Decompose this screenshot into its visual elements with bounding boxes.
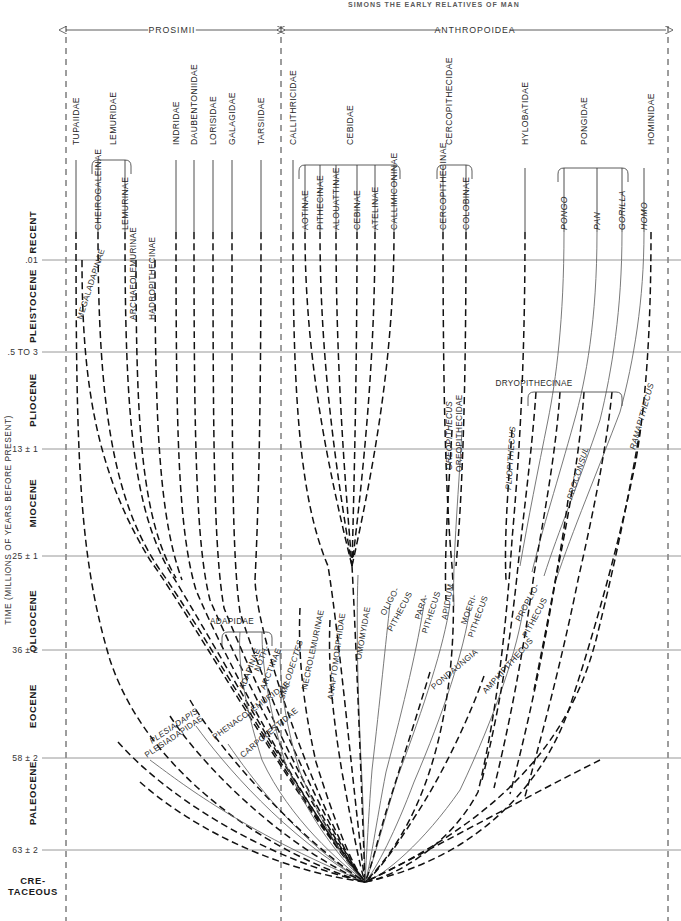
family-label-lemuridae: LEMURIDAE bbox=[108, 92, 118, 145]
bracket-dryopithecinae bbox=[528, 392, 622, 406]
fossil-label-hadropithecinae: HADROPITHECINAE bbox=[148, 237, 157, 320]
family-label-pongidae: PONGIDAE bbox=[579, 97, 589, 145]
family-label-indridae: INDRIDAE bbox=[171, 101, 181, 145]
subfamily-label-pithecinae: PITHECINAE bbox=[315, 175, 325, 230]
lineage-indridae bbox=[176, 232, 365, 882]
lineage-cebidae-sub bbox=[336, 232, 352, 566]
subfamily-label-colobinae: COLOBINAE bbox=[461, 177, 471, 230]
lineage-pongo bbox=[520, 232, 564, 566]
genus-label-pan: PAN bbox=[592, 211, 602, 230]
time-tick-label: .01 bbox=[25, 255, 38, 265]
lineage-moeripithecus bbox=[365, 608, 470, 882]
subfamily-label-aotinae: AOTINAE bbox=[300, 190, 310, 230]
lineage-dryo-c bbox=[510, 392, 584, 794]
time-tick-label: .5 TO 3 bbox=[8, 347, 38, 357]
genus-label-gorilla: GORILLA bbox=[617, 190, 627, 230]
family-label-tarsiidae: TARSIIDAE bbox=[256, 97, 266, 145]
suborder-prosimii: PROSIMII bbox=[149, 25, 196, 35]
axis-title: TIME (MILLIONS OF YEARS BEFORE PRESENT) bbox=[3, 415, 13, 625]
taxon-brackets bbox=[92, 160, 628, 646]
family-label-galagidae: GALAGIDAE bbox=[227, 92, 237, 145]
subfamily-label-callimiconinae: CALLIMICONINAE bbox=[389, 153, 399, 231]
fossil-label-archaeolemurinae: ARCHAEOLEMURINAE bbox=[129, 227, 138, 320]
fossil-taxon-labels: MEGALADAPINAEARCHAEOLEMURINAEHADROPITHEC… bbox=[75, 227, 656, 760]
family-label-tupaiidae: TUPAIIDAE bbox=[71, 97, 81, 145]
fossil-label-ramapithecus: RAMAPITHECUS bbox=[628, 382, 656, 451]
lineage-megaladapinae bbox=[82, 260, 365, 882]
time-tick-label: 63 ± 2 bbox=[12, 845, 38, 855]
time-tick-label: 25 ± 1 bbox=[12, 551, 38, 561]
lineage-amphipithecus bbox=[365, 676, 484, 882]
lineage-cercopithecinae bbox=[365, 232, 453, 882]
epoch-label: RECENT bbox=[27, 211, 38, 254]
fossil-label-oreopithecus: OREOPITHECUS bbox=[445, 401, 454, 470]
lineage-cebidae-sub bbox=[352, 232, 357, 566]
time-tick-label: 13 ± 1 bbox=[12, 444, 38, 454]
running-head: SIMONS THE EARLY RELATIVES OF MAN bbox=[348, 1, 520, 8]
subfamily-labels: CHEIROGALEINAELEMURINAEAOTINAEPITHECINAE… bbox=[93, 142, 471, 230]
lineage-homo bbox=[556, 232, 644, 580]
suborder-anthropoidea: ANTHROPOIDEA bbox=[434, 25, 515, 35]
fossil-label-dryopithecinae: DRYOPITHECINAE bbox=[496, 379, 573, 388]
lineage-carpolestidae bbox=[228, 744, 365, 882]
family-label-cebidae: CEBIDAE bbox=[345, 105, 355, 145]
epoch-label: PLIOCENE bbox=[27, 373, 38, 427]
lineage-ramapithecus bbox=[365, 430, 640, 882]
subfamily-label-alouattinae: ALOUATTINAE bbox=[331, 167, 341, 230]
epoch-label: MIOCENE bbox=[27, 479, 38, 528]
lineage-pan bbox=[532, 232, 597, 572]
bracket-adapidae bbox=[222, 632, 272, 646]
fossil-label-pondaungia: PONDAUNGIA bbox=[430, 647, 480, 691]
epoch-label: TACEOUS bbox=[8, 886, 58, 897]
genus-label-homo: HOMO bbox=[639, 202, 649, 230]
lineage-cebidae-sub bbox=[352, 232, 394, 566]
lineage-tupaiidae bbox=[76, 232, 365, 882]
subfamily-label-lemurinae: LEMURINAE bbox=[120, 177, 130, 230]
phylogeny-chart-svg: SIMONS THE EARLY RELATIVES OF MAN PROSIM… bbox=[0, 0, 681, 921]
primate-phylogeny-figure: SIMONS THE EARLY RELATIVES OF MAN PROSIM… bbox=[0, 0, 681, 921]
family-label-hylobatidae: HYLOBATIDAE bbox=[520, 82, 530, 145]
fossil-label-pliopithecus: PLIOPITHECUS bbox=[504, 426, 517, 490]
subfamily-label-atelinae: ATELINAE bbox=[370, 186, 380, 230]
lineage-phenacolemuridae bbox=[196, 726, 365, 882]
fossil-label-necrolemurinae: NECROLEMURINAE bbox=[300, 609, 326, 691]
family-label-lorisidae: LORISIDAE bbox=[208, 96, 218, 145]
lineage-plesiadapis bbox=[150, 760, 365, 882]
subfamily-label-cercopithecinae: CERCOPITHECINAE bbox=[438, 142, 448, 230]
family-label-hominidae: HOMINIDAE bbox=[646, 93, 656, 145]
lineage-dryo-b bbox=[494, 392, 560, 788]
fossil-label-oreopithecidae: OREOPITHECIDAE bbox=[455, 394, 464, 472]
lineage-propliopithecus bbox=[365, 604, 524, 882]
lineage-cheirogaleinae bbox=[98, 232, 365, 882]
genus-labels: PONGOPANGORILLAHOMO bbox=[559, 190, 649, 230]
bracket-cebidae bbox=[299, 165, 400, 179]
subfamily-label-cheirogaleinae: CHEIROGALEINAE bbox=[93, 149, 103, 230]
genus-label-pongo: PONGO bbox=[559, 196, 569, 230]
epoch-label: OLIGOCENE bbox=[27, 590, 38, 653]
bracket-pongidae bbox=[558, 168, 628, 182]
family-labels: TUPAIIDAELEMURIDAEINDRIDAEDAUBENTONIIDAE… bbox=[71, 57, 656, 145]
fossil-label-adapidae: ADAPIDAE bbox=[210, 617, 254, 626]
family-label-daubentoniidae: DAUBENTONIIDAE bbox=[189, 64, 199, 145]
lineage-hominidae bbox=[365, 232, 651, 882]
fossil-label-apidium: APIDIUM bbox=[440, 583, 455, 620]
time-axis: .01.5 TO 313 ± 125 ± 136 ± 258 ± 263 ± 2… bbox=[3, 211, 58, 897]
lineage-parapithecus bbox=[365, 604, 424, 882]
fossil-label-proconsul: PROCONSUL bbox=[565, 446, 590, 501]
lineage-callithricidae bbox=[293, 232, 365, 882]
epoch-label: CRE- bbox=[20, 875, 46, 886]
subfamily-label-cebinae: CEBINAE bbox=[352, 190, 362, 230]
epoch-label: PLEISTOCENE bbox=[27, 269, 38, 343]
lineage-proconsul bbox=[534, 500, 568, 690]
running-head-text: SIMONS THE EARLY RELATIVES OF MAN bbox=[348, 1, 520, 8]
family-label-cercopithecidae: CERCOPITHECIDAE bbox=[444, 57, 454, 145]
lineage-paths bbox=[76, 232, 651, 882]
lineage-daubentoniidae bbox=[194, 232, 365, 882]
epoch-label: PALEOCENE bbox=[27, 761, 38, 825]
epoch-label: EOCENE bbox=[27, 684, 38, 728]
fossil-label-megaladapinae: MEGALADAPINAE bbox=[75, 247, 106, 320]
family-label-callithricidae: CALLITHRICIDAE bbox=[288, 70, 298, 145]
lineage-dryo-d bbox=[524, 392, 612, 800]
